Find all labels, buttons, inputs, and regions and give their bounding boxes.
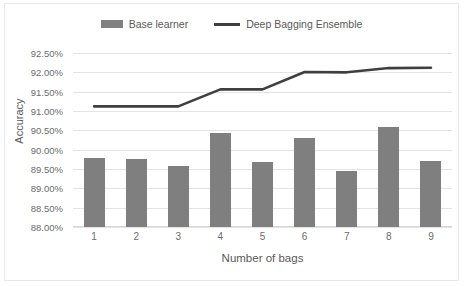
- y-axis-tick-label: 90.00%: [31, 144, 63, 155]
- plot-area: [73, 53, 452, 227]
- x-axis-tick-label: 6: [302, 231, 308, 242]
- chart-legend: Base learner Deep Bagging Ensemble: [5, 18, 458, 30]
- gridline: [73, 227, 452, 228]
- y-axis-tick-label: 89.00%: [31, 183, 63, 194]
- x-axis-title: Number of bags: [73, 252, 452, 264]
- x-axis-tick-label: 8: [386, 231, 392, 242]
- y-axis-tick-label: 91.50%: [31, 86, 63, 97]
- legend-item-deep-bagging-ensemble: Deep Bagging Ensemble: [214, 18, 362, 30]
- y-axis-tick-labels: 92.50%92.00%91.50%91.00%90.50%90.00%89.5…: [5, 53, 69, 227]
- line-series-deep-bagging-ensemble: [73, 53, 452, 227]
- legend-label-deep-bagging-ensemble: Deep Bagging Ensemble: [246, 18, 362, 30]
- line-path: [94, 68, 431, 107]
- x-axis-tick-labels: 123456789: [73, 231, 452, 247]
- legend-line-swatch-icon: [214, 23, 240, 26]
- chart-container: Base learner Deep Bagging Ensemble Accur…: [4, 3, 459, 281]
- y-axis-tick-label: 88.50%: [31, 202, 63, 213]
- y-axis-tick-label: 92.50%: [31, 48, 63, 59]
- y-axis-tick-label: 92.00%: [31, 67, 63, 78]
- legend-item-base-learner: Base learner: [101, 18, 189, 30]
- x-axis-tick-label: 5: [260, 231, 266, 242]
- legend-bar-swatch-icon: [101, 20, 123, 28]
- x-axis-tick-label: 9: [428, 231, 434, 242]
- x-axis-tick-label: 2: [133, 231, 139, 242]
- x-axis-tick-label: 3: [175, 231, 181, 242]
- x-axis-tick-label: 7: [344, 231, 350, 242]
- x-axis-tick-label: 4: [218, 231, 224, 242]
- x-axis-tick-label: 1: [91, 231, 97, 242]
- legend-label-base-learner: Base learner: [129, 18, 189, 30]
- y-axis-tick-label: 90.50%: [31, 125, 63, 136]
- y-axis-tick-label: 91.00%: [31, 106, 63, 117]
- y-axis-tick-label: 88.00%: [31, 222, 63, 233]
- y-axis-tick-label: 89.50%: [31, 164, 63, 175]
